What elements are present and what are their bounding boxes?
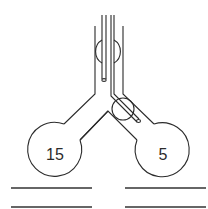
tube-left-wall <box>64 26 95 124</box>
left-bulb-label: 15 <box>46 146 64 163</box>
inner-rod-end <box>137 120 141 123</box>
lower-seal <box>112 98 134 120</box>
upper-seal-left <box>96 40 102 63</box>
tube-crotch <box>80 111 137 140</box>
upper-seal-right <box>114 40 120 63</box>
right-bulb-label: 5 <box>159 146 168 163</box>
inner-tube-short <box>102 15 106 79</box>
answer-lines <box>11 188 206 207</box>
inner-rod <box>102 15 141 123</box>
tube-right-wall <box>123 26 154 124</box>
diagram: 15 5 <box>0 0 208 209</box>
inner-tube-short-end <box>102 79 106 82</box>
